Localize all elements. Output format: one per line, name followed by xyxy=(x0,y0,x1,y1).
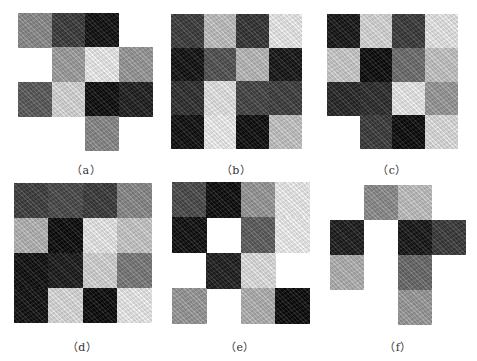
texture-cell xyxy=(85,13,119,48)
texture-cell xyxy=(14,183,49,218)
texture-cell xyxy=(171,14,204,48)
texture-cell xyxy=(18,82,52,117)
texture-cell xyxy=(117,218,152,253)
texture-cell xyxy=(83,288,118,323)
texture-cell xyxy=(236,115,269,149)
texture-cell xyxy=(392,82,425,116)
texture-cell xyxy=(14,288,49,323)
texture-cell xyxy=(327,14,360,48)
texture-cell xyxy=(398,185,432,220)
texture-cell xyxy=(398,290,432,325)
texture-cell xyxy=(171,81,204,115)
texture-cell xyxy=(85,116,119,151)
texture-cell xyxy=(117,183,152,218)
texture-cell xyxy=(392,48,425,82)
texture-cell xyxy=(14,218,49,253)
panel-e-grid xyxy=(172,182,309,323)
texture-cell xyxy=(236,48,269,82)
texture-cell xyxy=(425,115,458,149)
texture-cell xyxy=(48,288,83,323)
panel-b-grid xyxy=(171,14,301,148)
texture-cell xyxy=(171,115,204,149)
panel-f-label: （f） xyxy=(368,338,428,354)
texture-cell xyxy=(52,47,86,82)
texture-cell xyxy=(85,47,119,82)
texture-cell xyxy=(117,253,152,288)
texture-cell xyxy=(83,183,118,218)
panel-a-label: （a） xyxy=(56,161,116,177)
texture-cell xyxy=(204,14,237,48)
texture-cell xyxy=(425,48,458,82)
texture-cell xyxy=(48,218,83,253)
texture-cell xyxy=(117,288,152,323)
texture-cell xyxy=(360,82,393,116)
texture-cell xyxy=(206,253,241,289)
texture-cell xyxy=(269,81,302,115)
texture-cell xyxy=(241,217,276,253)
texture-cell xyxy=(269,14,302,48)
panel-f-grid xyxy=(330,185,466,325)
texture-cell xyxy=(172,182,207,218)
texture-cell xyxy=(172,288,207,324)
texture-cell xyxy=(241,182,276,218)
texture-cell xyxy=(204,81,237,115)
texture-cell xyxy=(204,115,237,149)
texture-cell xyxy=(269,115,302,149)
texture-cell xyxy=(269,48,302,82)
texture-cell xyxy=(85,82,119,117)
texture-cell xyxy=(52,82,86,117)
texture-cell xyxy=(18,13,52,48)
texture-cell xyxy=(392,115,425,149)
texture-cell xyxy=(392,14,425,48)
texture-cell xyxy=(327,82,360,116)
texture-cell xyxy=(52,13,86,48)
panel-d-grid xyxy=(14,183,151,323)
texture-cell xyxy=(236,81,269,115)
texture-cell xyxy=(275,182,310,218)
texture-cell xyxy=(83,218,118,253)
texture-cell xyxy=(172,217,207,253)
texture-cell xyxy=(398,255,432,290)
texture-cell xyxy=(14,253,49,288)
texture-cell xyxy=(364,185,398,220)
texture-cell xyxy=(204,48,237,82)
texture-cell xyxy=(206,182,241,218)
texture-cell xyxy=(360,115,393,149)
texture-cell xyxy=(360,48,393,82)
texture-cell xyxy=(425,14,458,48)
panel-b-label: （b） xyxy=(206,161,266,177)
texture-cell xyxy=(119,82,153,117)
texture-cell xyxy=(425,82,458,116)
texture-cell xyxy=(330,220,364,255)
texture-cell xyxy=(241,288,276,324)
texture-cell xyxy=(275,217,310,253)
texture-cell xyxy=(48,183,83,218)
texture-cell xyxy=(83,253,118,288)
texture-cell xyxy=(171,48,204,82)
texture-cell xyxy=(327,48,360,82)
panel-d-label: （d） xyxy=(52,338,112,354)
texture-cell xyxy=(398,220,432,255)
texture-cell xyxy=(236,14,269,48)
panel-e-label: （e） xyxy=(210,338,270,354)
texture-cell xyxy=(119,47,153,82)
texture-cell xyxy=(275,288,310,324)
texture-cell xyxy=(330,255,364,290)
texture-cell xyxy=(48,253,83,288)
panel-a-grid xyxy=(18,13,152,150)
texture-cell xyxy=(432,220,466,255)
panel-c-grid xyxy=(327,14,457,149)
texture-cell xyxy=(241,253,276,289)
panel-c-label: （c） xyxy=(362,161,422,177)
texture-cell xyxy=(360,14,393,48)
